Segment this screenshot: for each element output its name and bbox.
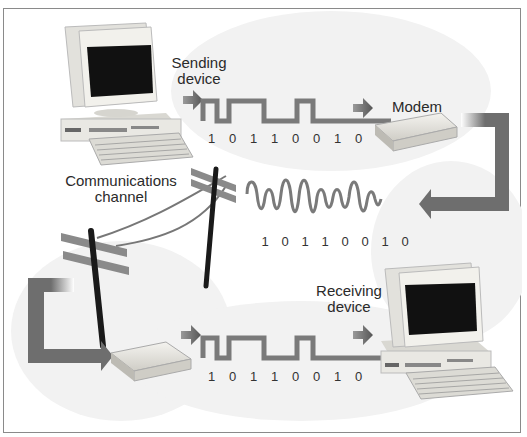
digital-bits-bottom: 1 0 1 1 0 0 1 0 bbox=[201, 369, 369, 384]
sending-device-label: Sending device bbox=[164, 55, 234, 87]
receiving-device-label: Receiving device bbox=[309, 283, 389, 315]
modem-label: Modem bbox=[382, 99, 452, 115]
diagram-frame: Sending device Modem Communications chan… bbox=[3, 8, 521, 433]
communications-channel-label: Communications channel bbox=[56, 173, 186, 205]
analog-signal-wave bbox=[247, 180, 381, 212]
analog-bits: 1 0 1 1 0 0 1 0 bbox=[255, 234, 415, 249]
digital-bits-top: 1 0 1 1 0 0 1 0 bbox=[201, 131, 369, 146]
